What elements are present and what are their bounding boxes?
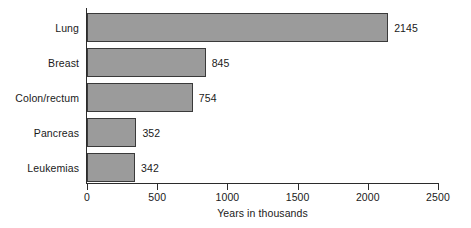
bar-row: 754 <box>87 83 438 112</box>
category-label-pancreas: Pancreas <box>34 127 79 139</box>
x-tick-label: 0 <box>84 191 90 203</box>
bar <box>87 83 193 112</box>
bar-row: 2145 <box>87 13 438 42</box>
x-tick-label: 500 <box>148 191 166 203</box>
bar-chart: 2145845754352342 Years in thousands Lung… <box>0 0 471 228</box>
bar-value-label: 2145 <box>394 22 418 34</box>
x-axis-line <box>86 183 439 184</box>
bar-value-label: 342 <box>141 162 159 174</box>
bar <box>87 48 206 77</box>
bar-row: 342 <box>87 153 438 182</box>
x-tick-label: 1000 <box>216 191 240 203</box>
category-label-breast: Breast <box>48 57 79 69</box>
x-axis-title-label: Years in thousands <box>217 207 308 219</box>
bar-value-label: 845 <box>212 57 230 69</box>
x-tick <box>87 184 88 190</box>
bar-value-label: 352 <box>142 127 160 139</box>
category-label-colon-rectum: Colon/rectum <box>15 92 79 104</box>
x-tick <box>227 184 228 190</box>
x-tick-label: 2000 <box>356 191 380 203</box>
bar <box>87 153 135 182</box>
x-tick <box>157 184 158 190</box>
bar <box>87 13 388 42</box>
x-tick <box>368 184 369 190</box>
x-tick <box>298 184 299 190</box>
plot-area: 2145845754352342 <box>87 8 438 183</box>
x-tick <box>438 184 439 190</box>
x-tick-label: 2500 <box>426 191 450 203</box>
category-label-leukemias: Leukemias <box>27 162 79 174</box>
category-label-lung: Lung <box>55 22 79 34</box>
bar-value-label: 754 <box>199 92 217 104</box>
x-tick-label: 1500 <box>286 191 310 203</box>
bar-row: 352 <box>87 118 438 147</box>
x-axis-title: Years in thousands <box>0 207 471 219</box>
bar-row: 845 <box>87 48 438 77</box>
bar <box>87 118 136 147</box>
